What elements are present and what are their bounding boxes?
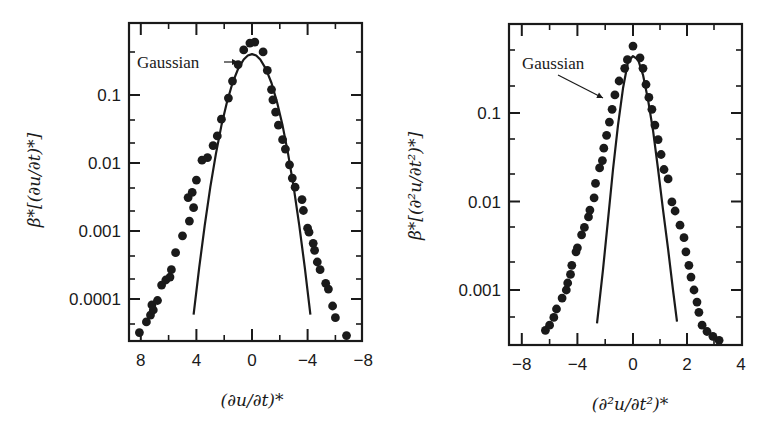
left-gaussian-annotation: Gaussian — [137, 53, 238, 72]
data-point — [629, 42, 638, 51]
data-point — [567, 261, 576, 270]
left-y-axis-label: β*[(∂u/∂t)*] — [24, 132, 44, 228]
data-point — [153, 296, 162, 305]
y-tick-label: 0.1 — [477, 104, 501, 123]
data-point — [642, 80, 651, 89]
data-point — [657, 150, 666, 159]
data-point — [263, 66, 272, 75]
right-gaussian-annotation: Gaussian — [522, 54, 603, 98]
data-point — [224, 94, 233, 103]
data-point — [342, 331, 351, 340]
data-point — [188, 188, 197, 197]
data-point — [693, 298, 702, 307]
x-tick-label: −4 — [568, 355, 587, 374]
data-point — [566, 270, 575, 279]
data-point — [185, 217, 194, 226]
data-point — [203, 153, 212, 162]
data-point — [171, 248, 180, 257]
left-chart-panel: 840−4−80.10.010.0010.0001 Gaussian β*[(∂… — [24, 23, 373, 410]
data-point — [178, 231, 187, 240]
data-point — [654, 135, 663, 144]
y-tick-label: 0.01 — [468, 193, 501, 212]
right-y-axis-label: β*[(∂²u/∂t²)*] — [405, 132, 425, 241]
data-point — [573, 243, 582, 252]
data-point — [331, 313, 340, 322]
x-tick-label: −4 — [298, 351, 317, 370]
data-point — [676, 221, 685, 230]
data-point — [598, 156, 607, 165]
data-point — [217, 115, 226, 124]
x-tick-label: 8 — [136, 351, 145, 370]
data-point — [558, 294, 567, 303]
data-point — [549, 313, 558, 322]
data-point — [313, 258, 322, 267]
y-tick-label: 0.01 — [88, 154, 121, 173]
data-point — [580, 223, 589, 232]
data-point — [591, 179, 600, 188]
x-tick-label: −8 — [354, 351, 373, 370]
data-point — [166, 273, 175, 282]
data-point — [671, 207, 680, 216]
right-x-axis-label: (∂²u/∂t²)* — [592, 394, 669, 414]
data-point — [664, 175, 673, 184]
data-point — [310, 246, 319, 255]
data-point — [563, 279, 572, 288]
x-tick-label: 4 — [736, 355, 745, 374]
data-point — [189, 203, 198, 212]
annotation-arrow — [558, 75, 603, 98]
data-point — [288, 174, 297, 183]
y-tick-label: 0.0001 — [69, 290, 121, 309]
data-point — [281, 145, 290, 154]
data-point — [615, 77, 624, 86]
data-point — [611, 91, 620, 100]
data-point — [285, 160, 294, 169]
data-point — [645, 93, 654, 102]
data-point — [328, 302, 337, 311]
data-point — [274, 121, 283, 130]
right-chart-panel: −8−40240.10.010.001 Gaussian β*[(∂²u/∂t²… — [405, 24, 746, 414]
y-tick-label: 0.001 — [458, 281, 501, 300]
data-point — [209, 141, 218, 150]
data-point — [298, 195, 307, 204]
data-point — [545, 321, 554, 330]
data-point — [599, 144, 608, 153]
data-point — [291, 183, 300, 192]
data-point — [682, 247, 691, 256]
right-gaussian-label: Gaussian — [522, 54, 585, 73]
data-point — [316, 265, 325, 274]
left-data-points — [135, 38, 351, 340]
right-gaussian-curve — [597, 56, 677, 323]
data-point — [267, 85, 276, 94]
data-point — [228, 77, 237, 86]
data-point — [259, 48, 268, 57]
data-point — [687, 273, 696, 282]
data-point — [620, 64, 629, 73]
x-tick-label: 0 — [628, 355, 637, 374]
data-point — [651, 121, 660, 130]
data-point — [269, 95, 278, 104]
data-point — [250, 38, 259, 47]
data-point — [239, 46, 248, 55]
left-chart-ticks: 840−4−80.10.010.0010.0001 — [69, 23, 373, 370]
data-point — [680, 233, 689, 242]
data-point — [639, 64, 648, 73]
data-point — [636, 53, 645, 62]
data-point — [586, 206, 595, 215]
left-x-axis-label: (∂u/∂t)* — [221, 390, 284, 410]
data-point — [135, 328, 144, 337]
data-point — [590, 193, 599, 202]
data-point — [192, 176, 201, 185]
y-tick-label: 0.001 — [78, 222, 121, 241]
x-tick-label: 0 — [247, 351, 256, 370]
data-point — [278, 135, 287, 144]
data-point — [695, 308, 704, 317]
data-point — [623, 55, 632, 64]
data-point — [552, 305, 561, 314]
x-tick-label: 4 — [192, 351, 201, 370]
data-point — [271, 108, 280, 117]
figure: 840−4−80.10.010.0010.0001 Gaussian β*[(∂… — [0, 0, 768, 430]
data-point — [648, 105, 657, 114]
right-data-points — [541, 42, 723, 345]
data-point — [213, 132, 222, 141]
data-point — [668, 198, 677, 207]
